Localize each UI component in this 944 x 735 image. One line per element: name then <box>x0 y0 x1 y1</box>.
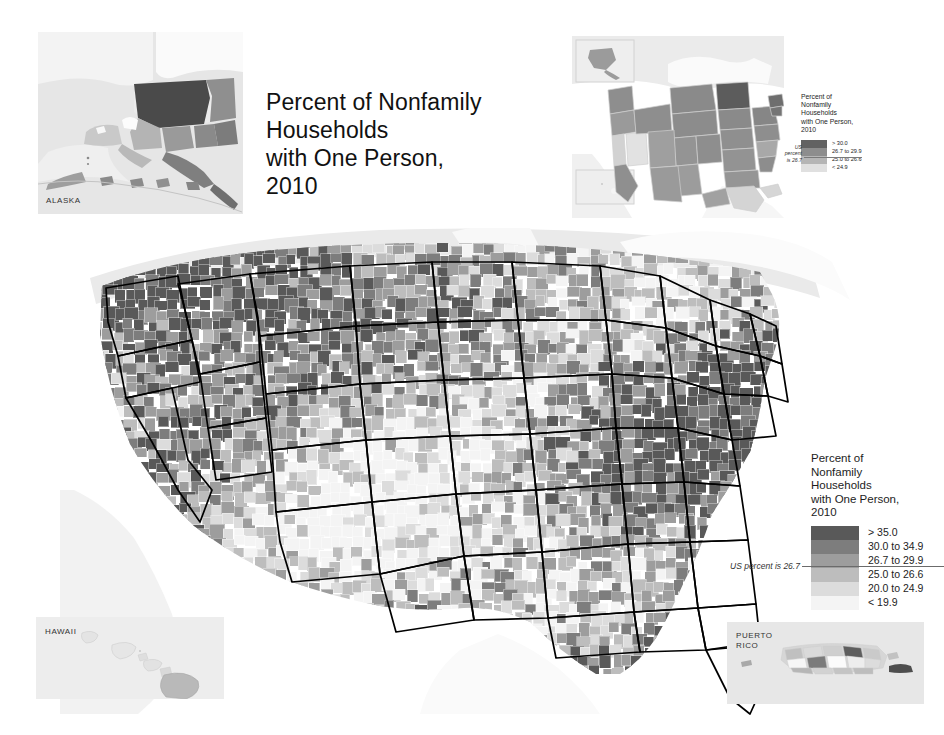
puerto-rico-label-line-1: PUERTO <box>736 631 773 641</box>
state-legend-swatch-1 <box>801 148 827 156</box>
main-legend-label-5: < 19.9 <box>859 596 898 610</box>
main-legend-title-line-1: Percent of <box>811 452 923 466</box>
main-us-percent-leader-line <box>802 566 944 567</box>
state-us-percent-line-3: is 26.7 <box>780 157 802 163</box>
main-legend-item[interactable]: < 19.9 <box>811 596 923 610</box>
page-title-line-2: Households <box>266 116 526 144</box>
state-us-percent-leader-line <box>804 157 862 158</box>
puerto-rico-inset-map[interactable]: PUERTO RICO <box>727 622 924 704</box>
main-legend-item[interactable]: > 35.0 <box>811 526 923 540</box>
state-legend-swatch-3 <box>801 164 827 172</box>
main-legend-swatch-1 <box>811 540 859 554</box>
main-legend-us-percent-note: US percent is 26.7 <box>730 561 800 571</box>
state-map-graphic <box>572 36 784 218</box>
page-title-line-1: Percent of Nonfamily <box>266 88 526 116</box>
main-legend-label-4: 20.0 to 24.9 <box>859 582 923 596</box>
state-legend-title-line-5: 2010 <box>801 126 862 134</box>
puerto-rico-label-line-2: RICO <box>736 641 773 651</box>
main-map-legend: Percent of Nonfamily Households with One… <box>811 452 923 610</box>
state-legend-title-line-4: with One Person, <box>801 118 862 126</box>
main-us-percent-text: US percent is 26.7 <box>730 561 800 571</box>
main-legend-label-0: > 35.0 <box>859 526 898 540</box>
state-legend-label-1: 26.7 to 29.9 <box>827 148 862 156</box>
main-legend-item[interactable]: 30.0 to 34.9 <box>811 540 923 554</box>
main-legend-swatch-0 <box>811 526 859 540</box>
state-map-legend: Percent of Nonfamily Households with One… <box>801 93 862 172</box>
puerto-rico-inset-label: PUERTO RICO <box>736 631 773 651</box>
state-legend-label-0: > 30.0 <box>827 140 848 148</box>
alaska-inset-label: ALASKA <box>46 196 81 206</box>
page-title-line-3: with One Person, <box>266 144 526 172</box>
main-legend-item[interactable]: 20.0 to 24.9 <box>811 582 923 596</box>
state-legend-us-percent-note: US percent is 26.7 <box>780 144 802 163</box>
page-title: Percent of Nonfamily Households with One… <box>266 88 526 200</box>
state-legend-item[interactable]: > 30.0 <box>801 140 862 148</box>
state-level-inset-map[interactable] <box>572 36 784 218</box>
main-legend-title: Percent of Nonfamily Households with One… <box>811 452 923 520</box>
main-legend-title-line-4: with One Person, <box>811 493 923 507</box>
main-legend-item[interactable]: 25.0 to 26.6 <box>811 568 923 582</box>
page-title-line-4: 2010 <box>266 172 526 200</box>
main-legend-swatch-list: > 35.0 30.0 to 34.9 26.7 to 29.9 25.0 to… <box>811 526 923 610</box>
state-legend-title-line-3: Households <box>801 109 862 117</box>
main-legend-swatch-4 <box>811 582 859 596</box>
main-legend-title-line-5: 2010 <box>811 506 923 520</box>
state-legend-title-line-2: Nonfamily <box>801 101 862 109</box>
state-legend-swatch-0 <box>801 140 827 148</box>
main-legend-label-3: 25.0 to 26.6 <box>859 568 923 582</box>
main-legend-swatch-5 <box>811 596 859 610</box>
alaska-map-graphic <box>38 32 243 214</box>
alaska-inset-map[interactable]: ALASKA <box>38 32 243 214</box>
state-legend-title-line-1: Percent of <box>801 93 862 101</box>
state-legend-label-3: < 24.9 <box>827 164 848 172</box>
main-legend-swatch-3 <box>811 568 859 582</box>
hawaii-inset-label: HAWAII <box>45 627 76 637</box>
main-legend-title-line-3: Households <box>811 479 923 493</box>
state-legend-item[interactable]: < 24.9 <box>801 164 862 172</box>
hawaii-inset-map[interactable]: HAWAII <box>36 617 224 699</box>
state-legend-item[interactable]: 26.7 to 29.9 <box>801 148 862 156</box>
main-legend-title-line-2: Nonfamily <box>811 466 923 480</box>
state-legend-title: Percent of Nonfamily Households with One… <box>801 93 862 134</box>
main-legend-label-1: 30.0 to 34.9 <box>859 540 923 554</box>
